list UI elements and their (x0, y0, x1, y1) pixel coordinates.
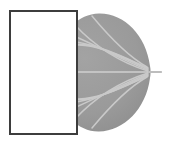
leaf-illustration (0, 0, 170, 145)
image-canvas: Leaf specimen with crop rectangle overla… (0, 0, 170, 145)
crop-rectangle[interactable] (10, 11, 77, 134)
